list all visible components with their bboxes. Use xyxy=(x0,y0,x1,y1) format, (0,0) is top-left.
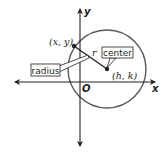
y-axis-label: y xyxy=(84,6,91,17)
center-callout-pointer xyxy=(107,58,116,68)
x-axis-label: x xyxy=(151,83,159,94)
circle-diagram: radius center (x, y) r (h, k) x y O xyxy=(0,0,164,154)
center-coordinates-label: (h, k) xyxy=(112,70,138,81)
radius-callout-label: radius xyxy=(32,66,60,76)
radius-callout-pointer xyxy=(59,55,89,72)
radius-symbol: r xyxy=(92,47,98,58)
origin-label: O xyxy=(82,83,91,94)
center-callout-label: center xyxy=(103,48,132,58)
point-label: (x, y) xyxy=(49,36,73,47)
